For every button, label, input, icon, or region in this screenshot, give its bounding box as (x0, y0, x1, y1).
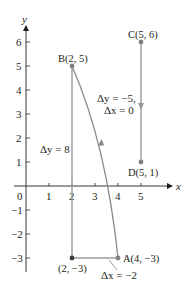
x-axis-label: x (175, 180, 181, 192)
x-axis (14, 183, 172, 186)
point-b-label: B(2, 5) (58, 53, 88, 65)
point-corner-label: (2, −3) (58, 263, 87, 275)
point-d-label: D(5, 1) (128, 167, 159, 179)
point-corner (70, 256, 75, 261)
y-tick-5: 5 (16, 60, 22, 72)
delta-y-cd-label: Δy = −5, (97, 92, 136, 104)
y-tick-6: 6 (16, 36, 22, 48)
delta-y-ab-label: Δy = 8 (40, 143, 70, 155)
y-axis-label: y (21, 13, 27, 25)
x-tick-3: 3 (92, 190, 98, 202)
point-c-label: C(5, 6) (128, 29, 158, 41)
increments-diagram: x y 0 1 2 3 4 5 1 2 3 4 5 6 −1 (0, 0, 192, 295)
point-b (70, 64, 75, 69)
y-tick-2: 2 (16, 132, 22, 144)
y-axis (26, 26, 30, 272)
y-tick-neg1: −1 (11, 204, 23, 216)
x-tick-5: 5 (138, 190, 144, 202)
segment-cd-direction-arrow-icon (138, 103, 144, 110)
origin-label: 0 (17, 190, 23, 202)
delta-x-cd-label: Δx = 0 (104, 104, 134, 116)
x-tick-4: 4 (115, 190, 121, 202)
point-d (139, 160, 144, 165)
point-c (139, 40, 144, 45)
y-tick-3: 3 (16, 108, 22, 120)
point-a-label: A(4, −3) (123, 253, 160, 265)
y-tick-neg2: −2 (11, 228, 23, 240)
y-tick-1: 1 (16, 156, 22, 168)
delta-x-ab-label: Δx = −2 (101, 269, 137, 281)
x-tick-1: 1 (46, 190, 52, 202)
point-a (116, 256, 121, 261)
y-tick-neg3: −3 (11, 252, 23, 264)
y-tick-4: 4 (16, 84, 22, 96)
curve-direction-arrow-icon (98, 139, 104, 146)
